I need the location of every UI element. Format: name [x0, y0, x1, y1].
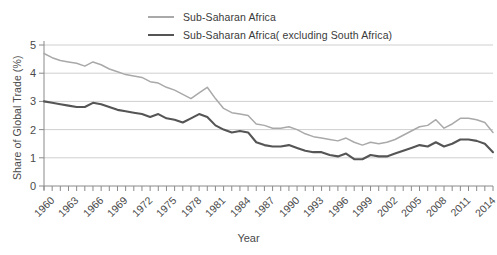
- y-tick-label: 3: [16, 95, 36, 107]
- x-tick-label: 1969: [100, 194, 130, 224]
- y-tick-label: 4: [16, 67, 36, 79]
- x-tick-label: 2014: [468, 194, 497, 224]
- y-tick-label: 2: [16, 124, 36, 136]
- x-tick-label: 1999: [345, 194, 375, 224]
- legend-swatch-series-0: [148, 16, 174, 18]
- series-line-0: [44, 53, 493, 145]
- x-tick-label: 1978: [174, 194, 204, 224]
- series-line-1: [44, 101, 493, 159]
- x-tick-label: 1972: [125, 194, 155, 224]
- x-tick-label: 1960: [27, 194, 57, 224]
- y-tick-label: 5: [16, 39, 36, 51]
- plot-svg: [44, 45, 493, 186]
- data-series-group: [44, 53, 493, 159]
- gridlines: [44, 45, 493, 158]
- x-tick-label: 2002: [370, 194, 400, 224]
- y-tick-label: 0: [16, 180, 36, 192]
- x-tick-label: 1975: [149, 194, 179, 224]
- legend-swatch-series-1: [148, 34, 174, 36]
- x-tick-label: 1990: [272, 194, 302, 224]
- x-tick-label: 1987: [247, 194, 277, 224]
- x-tick-label: 1981: [198, 194, 228, 224]
- x-tick-label: 1966: [76, 194, 106, 224]
- legend-item: Sub-Saharan Africa: [0, 8, 497, 26]
- y-tick-label: 1: [16, 152, 36, 164]
- x-tick-label: 2008: [419, 194, 449, 224]
- x-tick-label: 1984: [223, 194, 253, 224]
- x-tick-label: 1963: [51, 194, 81, 224]
- legend-item: Sub-Saharan Africa( excluding South Afri…: [0, 26, 497, 44]
- x-tick-label: 1993: [296, 194, 326, 224]
- x-axis-title: Year: [0, 232, 497, 244]
- x-tick-label: 2005: [394, 194, 424, 224]
- x-tick-label: 1996: [321, 194, 351, 224]
- chart-legend: Sub-Saharan Africa Sub-Saharan Africa( e…: [0, 8, 497, 44]
- x-axis-ticks: [44, 186, 493, 191]
- legend-label-series-0: Sub-Saharan Africa: [183, 11, 276, 23]
- legend-label-series-1: Sub-Saharan Africa( excluding South Afri…: [183, 29, 392, 41]
- y-axis-ticks: [39, 45, 44, 186]
- x-tick-label: 2011: [443, 194, 473, 224]
- plot-area: [44, 45, 493, 186]
- chart-container: Sub-Saharan Africa Sub-Saharan Africa( e…: [0, 0, 497, 255]
